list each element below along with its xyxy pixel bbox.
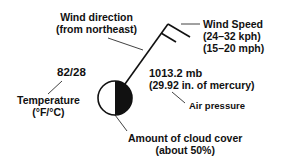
leader-cloud-cover (115, 115, 127, 131)
wind-direction-detail: (from northeast) (56, 23, 137, 35)
cloud-cover-title: Amount of cloud cover (128, 132, 242, 144)
leader-air-pressure (172, 92, 185, 103)
wind-speed-mph: (15–20 mph) (203, 42, 264, 54)
wind-speed-title: Wind Speed (203, 18, 264, 30)
temperature-units: (°F/°C) (17, 106, 80, 118)
temperature-value: 82/28 (57, 66, 86, 78)
wind-speed-label: Wind Speed (24–32 kph) (15–20 mph) (203, 18, 264, 54)
pressure-mb: 1013.2 mb (149, 67, 255, 79)
pressure-inhg: (29.92 in. of mercury) (149, 79, 255, 91)
leader-temperature (48, 81, 62, 94)
wind-speed-kph: (24–32 kph) (203, 30, 264, 42)
air-pressure-label: Air pressure (189, 100, 245, 112)
cloud-cover-label: Amount of cloud cover (about 50%) (128, 132, 242, 156)
wind-barb-1 (168, 24, 190, 37)
wind-direction-title: Wind direction (56, 11, 137, 23)
wind-barb-2 (161, 33, 176, 42)
temperature-title: Temperature (17, 94, 80, 106)
wind-direction-label: Wind direction (from northeast) (56, 11, 137, 35)
cloud-cover-circle (98, 81, 132, 115)
temperature-label: Temperature (°F/°C) (17, 94, 80, 118)
pressure-value: 1013.2 mb (29.92 in. of mercury) (149, 67, 255, 91)
leader-wind-direction (108, 38, 143, 50)
cloud-cover-percent: (about 50%) (128, 144, 242, 156)
